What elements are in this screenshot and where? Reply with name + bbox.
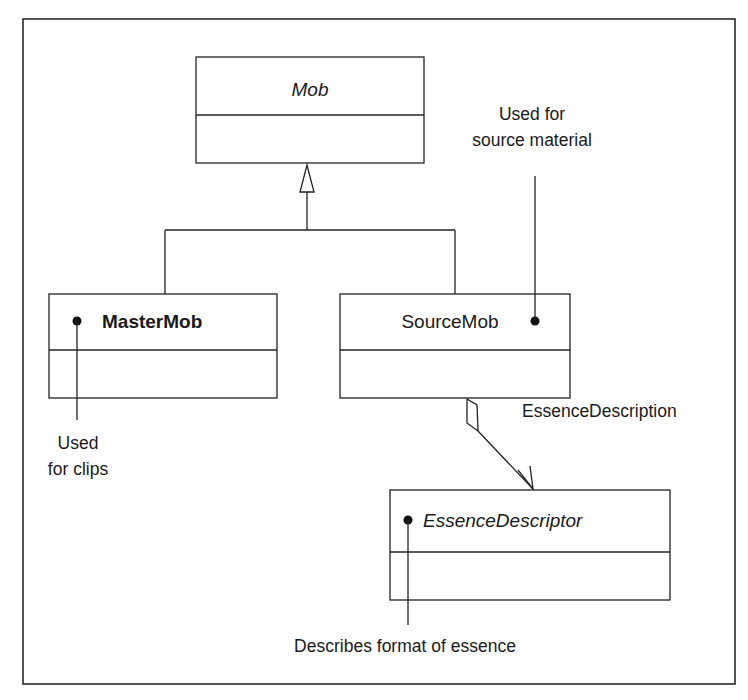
master-note-line2: for clips bbox=[48, 459, 109, 479]
class-master-mob-name: MasterMob bbox=[102, 311, 202, 332]
essence-note: Describes format of essence bbox=[294, 636, 516, 656]
class-source-mob-name: SourceMob bbox=[401, 311, 498, 332]
association-label: EssenceDescription bbox=[522, 401, 677, 421]
class-mob-name: Mob bbox=[292, 79, 329, 100]
navigability-arrow-icon bbox=[518, 466, 533, 489]
master-note: Used bbox=[58, 433, 99, 453]
class-essence-descriptor: EssenceDescriptor bbox=[390, 490, 670, 600]
aggregation-diamond-icon bbox=[467, 399, 478, 431]
class-mob: Mob bbox=[196, 57, 424, 163]
generalization-arrow bbox=[165, 165, 455, 294]
uml-class-diagram: Mob MasterMob Used for clips SourceMob U… bbox=[0, 0, 748, 700]
association-essence-description: EssenceDescription bbox=[467, 399, 677, 489]
class-essence-descriptor-name: EssenceDescriptor bbox=[423, 510, 583, 531]
source-note-line2: source material bbox=[472, 130, 592, 150]
source-note: Used for bbox=[499, 104, 565, 124]
class-master-mob: MasterMob bbox=[49, 294, 277, 398]
generalization-triangle-icon bbox=[300, 165, 314, 192]
